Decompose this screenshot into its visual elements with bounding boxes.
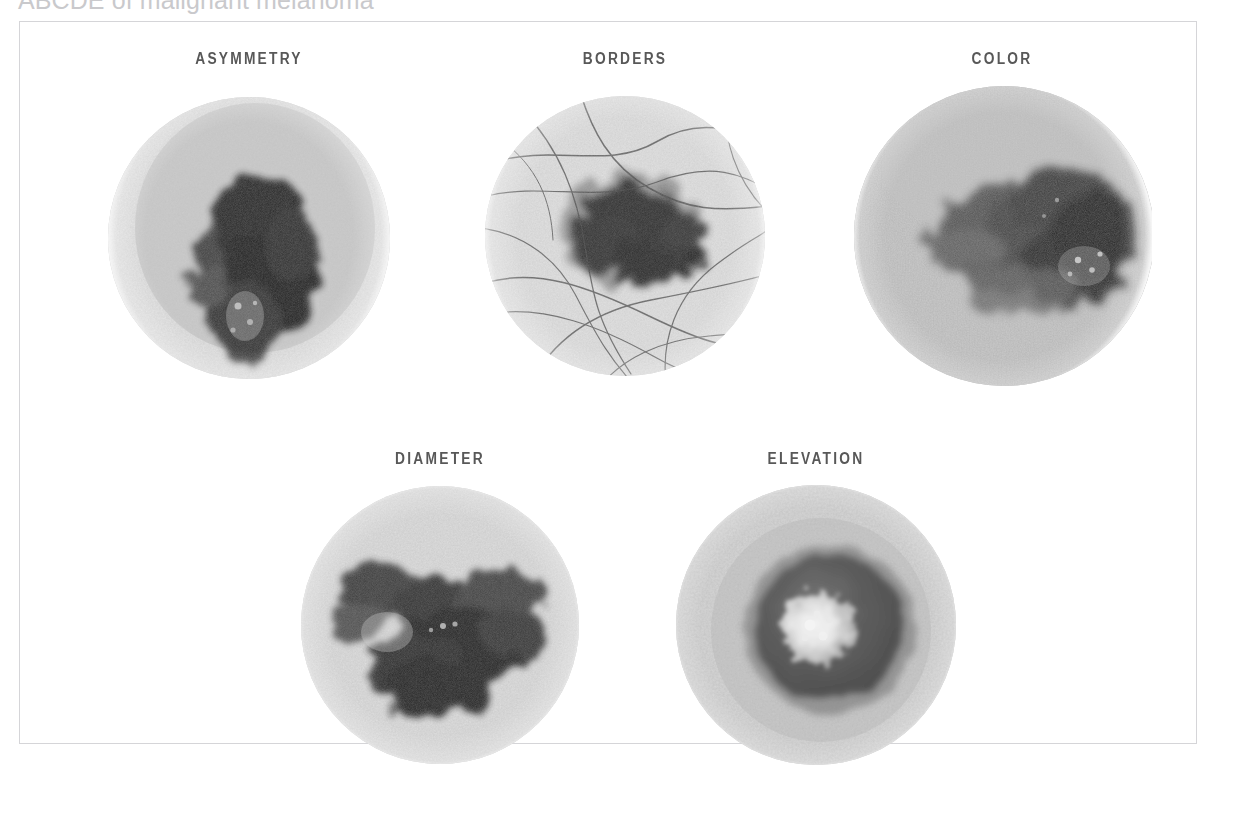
panel-label-asymmetry: ASYMMETRY — [103, 50, 395, 68]
panel-label-diameter: DIAMETER — [294, 450, 586, 468]
panel-color: COLOR — [832, 50, 1172, 394]
dermoscopy-image-borders — [481, 78, 769, 394]
figure-title: ABCDE of malignant melanoma — [18, 0, 374, 14]
panel-borders: BORDERS — [455, 50, 795, 394]
panel-label-borders: BORDERS — [479, 50, 771, 68]
panel-label-elevation: ELEVATION — [670, 450, 962, 468]
dermoscopy-image-asymmetry — [105, 78, 393, 394]
panel-asymmetry: ASYMMETRY — [79, 50, 419, 394]
dermoscopy-image-diameter — [295, 480, 585, 770]
panel-label-color: COLOR — [856, 50, 1148, 68]
figure-frame: ASYMMETRY — [19, 21, 1197, 744]
panel-diameter: DIAMETER — [270, 450, 610, 770]
panel-elevation: ELEVATION — [646, 450, 986, 770]
dermoscopy-image-elevation — [671, 480, 961, 770]
dermoscopy-image-color — [852, 78, 1152, 394]
